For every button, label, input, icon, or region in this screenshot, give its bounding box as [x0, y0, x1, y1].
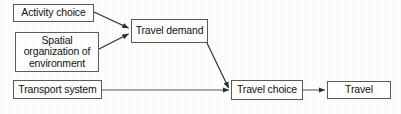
- node-transport-system-label: Transport system: [16, 84, 98, 96]
- node-travel-choice-label: Travel choice: [235, 84, 299, 96]
- node-travel[interactable]: Travel: [327, 81, 391, 99]
- node-activity-choice[interactable]: Activity choice: [13, 4, 94, 22]
- edge-travel-demand-to-travel-choice: [207, 43, 229, 88]
- edge-spatial-organization-to-travel-demand: [99, 34, 129, 49]
- node-travel-demand[interactable]: Travel demand: [131, 19, 208, 43]
- node-spatial-organization-label: Spatial organization of environment: [22, 35, 93, 70]
- node-spatial-organization[interactable]: Spatial organization of environment: [15, 32, 99, 72]
- node-transport-system[interactable]: Transport system: [13, 80, 102, 99]
- edge-activity-choice-to-travel-demand: [94, 12, 129, 28]
- node-travel-label: Travel: [343, 84, 375, 96]
- node-travel-choice[interactable]: Travel choice: [231, 80, 303, 100]
- node-activity-choice-label: Activity choice: [19, 7, 87, 19]
- diagram-canvas: Activity choice Spatial organization of …: [0, 0, 401, 114]
- node-travel-demand-label: Travel demand: [134, 25, 206, 37]
